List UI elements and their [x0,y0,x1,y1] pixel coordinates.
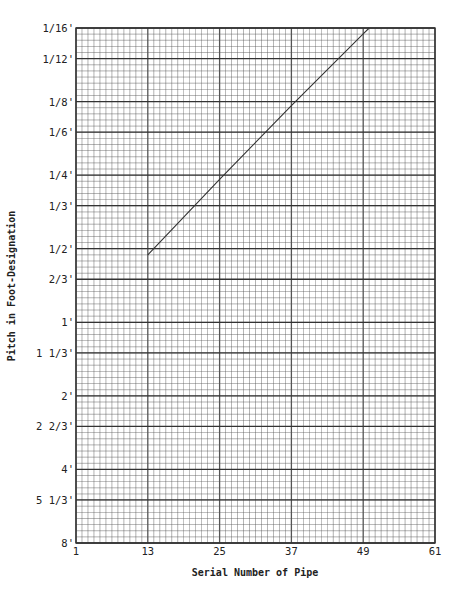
grid [76,28,435,543]
series-line [148,28,369,255]
y-tick-label: 4' [61,463,74,475]
x-tick-label: 25 [213,545,226,557]
x-axis-title: Serial Number of Pipe [192,567,318,578]
y-tick-label: 2/3' [49,273,74,285]
y-tick-label: 1/6' [49,126,74,138]
x-tick-label: 1 [73,545,79,557]
x-tick-label: 49 [357,545,370,557]
y-tick-label: 2 2/3' [36,420,74,432]
y-tick-label: 1/3' [49,200,74,212]
pipe-pitch-chart: 1/16'1/12'1/8'1/6'1/4'1/3'1/2'2/3'1'1 1/… [0,0,463,600]
y-axis-title: Pitch in Foot-Designation [6,211,17,362]
y-tick-label: 1/8' [49,96,74,108]
y-tick-label: 1/12' [42,53,74,65]
data-line [148,28,369,255]
x-tick-label: 37 [285,545,298,557]
x-tick-label: 13 [141,545,154,557]
y-tick-label: 1' [61,316,74,328]
y-tick-label: 5 1/3' [36,494,74,506]
x-tick-label: 61 [429,545,442,557]
y-axis-ticks: 1/16'1/12'1/8'1/6'1/4'1/3'1/2'2/3'1'1 1/… [36,22,74,549]
y-tick-label: 1/16' [42,22,74,34]
x-axis-ticks: 11325374961 [73,545,441,557]
y-tick-label: 1/4' [49,169,74,181]
y-tick-label: 1 1/3' [36,347,74,359]
y-tick-label: 1/2' [49,243,74,255]
y-tick-label: 2' [61,390,74,402]
